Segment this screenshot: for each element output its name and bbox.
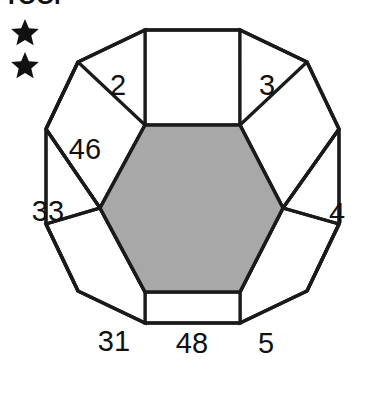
square-bottom: [145, 292, 240, 323]
cell-label-33: 33: [32, 195, 64, 227]
cell-label-48: 48: [176, 327, 208, 359]
cell-label-46: 46: [69, 133, 101, 165]
page-root: TOOl: [0, 0, 368, 396]
cell-label-5: 5: [258, 327, 274, 359]
square-top: [145, 30, 240, 125]
dodecagon-hexagon-diagram: 2 3 46 33 4 31 48 5: [0, 0, 368, 396]
cell-label-4: 4: [329, 197, 345, 229]
cell-label-31: 31: [98, 325, 130, 357]
cell-label-2: 2: [110, 69, 126, 101]
cell-label-3: 3: [259, 69, 275, 101]
